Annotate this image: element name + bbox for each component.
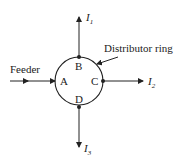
node-a-label: A [60, 75, 68, 87]
node-c-label: C [91, 75, 98, 87]
ring-distributor-diagram: Feeder I1 I2 I3 A B C D Distributor ring [0, 0, 181, 162]
ring-label: Distributor ring [104, 42, 173, 54]
feeder-label: Feeder [10, 63, 40, 75]
node-b-label: B [75, 60, 82, 72]
node-d-label: D [75, 93, 83, 105]
ring-callout-arrow [97, 57, 118, 64]
load-i1-label: I1 [85, 11, 93, 26]
load-i2-label: I2 [147, 75, 156, 90]
node-d-dot [77, 105, 81, 109]
node-c-dot [101, 79, 105, 83]
node-b-dot [77, 55, 81, 59]
load-i3-label: I3 [83, 142, 92, 157]
